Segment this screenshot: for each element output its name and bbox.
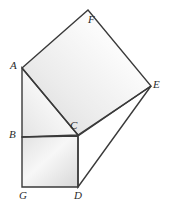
vertex-label-E: E <box>153 79 160 90</box>
vertex-label-C: C <box>70 120 77 131</box>
geometry-canvas <box>0 0 169 207</box>
vertex-label-F: F <box>88 14 95 25</box>
vertex-label-G: G <box>19 190 27 201</box>
vertex-label-B: B <box>9 129 16 140</box>
geometry-figure: A B C D E F G <box>0 0 169 207</box>
vertex-label-D: D <box>74 190 82 201</box>
vertex-label-A: A <box>10 60 17 71</box>
square-on-leg-BGDC <box>22 136 78 187</box>
